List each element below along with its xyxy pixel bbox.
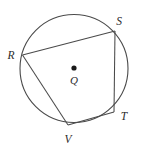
vertex-label-t: T (121, 110, 129, 122)
center-label-q: Q (70, 74, 78, 86)
chord-st (114, 31, 115, 112)
vertex-label-v: V (64, 133, 73, 145)
geometry-figure-container: Q R S T V (0, 0, 146, 149)
vertex-label-s: S (116, 15, 122, 27)
chord-rs (23, 31, 116, 55)
center-point-dot (71, 65, 76, 70)
chord-tv (68, 112, 114, 125)
geometry-figure-svg: Q R S T V (0, 0, 146, 149)
vertex-label-r: R (6, 49, 14, 61)
